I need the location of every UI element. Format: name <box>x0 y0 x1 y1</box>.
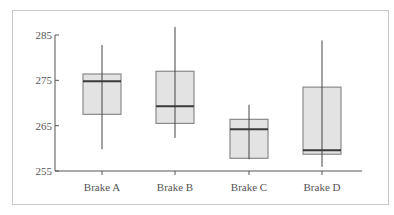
box-brake-c <box>230 105 268 159</box>
x-category-label: Brake D <box>304 181 341 193</box>
x-category-label: Brake C <box>231 181 267 193</box>
box-series <box>83 27 341 167</box>
y-tick-label: 285 <box>36 29 53 41</box>
box-brake-a <box>83 45 121 149</box>
x-category-label: Brake B <box>157 181 193 193</box>
x-category-label: Brake A <box>84 181 120 193</box>
box-brake-d <box>303 40 341 166</box>
y-tick-label: 265 <box>36 120 53 132</box>
y-tick-label: 275 <box>36 74 53 86</box>
box-plot-chart: 255265275285Brake ABrake BBrake CBrake D <box>0 0 394 215</box>
y-tick-label: 255 <box>36 165 53 177</box>
box-brake-b <box>156 27 194 138</box>
